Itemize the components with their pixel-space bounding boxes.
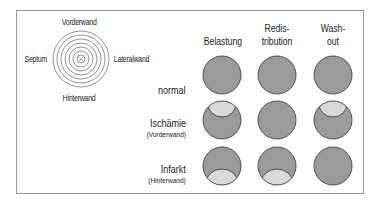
scan-infarkt-washout <box>314 147 352 185</box>
scan-ischaemie-washout <box>314 91 352 139</box>
row-label-sub: (Hinterwand) <box>148 176 186 186</box>
scan-normal-belastung <box>203 56 241 94</box>
bullseye-rings-icon <box>53 31 109 87</box>
column-label: Belastung <box>204 35 242 47</box>
column-header-washout: Wash- out <box>313 22 354 48</box>
row-label-infarkt: Infarkt (Hinterwand) <box>148 163 186 186</box>
row-label-main: Ischämie <box>147 117 186 130</box>
row-label-main: normal <box>158 84 186 97</box>
column-label-line1: Redis- <box>257 22 298 35</box>
scan-normal-washout <box>314 56 352 94</box>
scan-normal-redistribution <box>258 56 296 94</box>
bullseye-label-left: Septum <box>24 54 47 64</box>
scan-ischaemie-belastung <box>203 91 241 139</box>
column-label-line2: tribution <box>257 35 298 48</box>
scan-infarkt-redistribution <box>258 147 296 197</box>
bullseye-label-bottom: Hinterwand <box>63 93 96 103</box>
column-header-redistribution: Redis- tribution <box>257 22 298 48</box>
scan-infarkt-belastung <box>203 147 241 197</box>
bullseye-label-top: Vorderwand <box>62 17 97 27</box>
row-label-main: Infarkt <box>148 163 186 176</box>
bullseye-label-right: Lateralwand <box>114 54 149 64</box>
column-label-line2: out <box>313 35 354 48</box>
scan-ischaemie-redistribution <box>258 101 296 139</box>
row-label-normal: normal <box>158 84 186 97</box>
column-label-line1: Wash- <box>313 22 354 35</box>
row-label-ischaemie: Ischämie (Vorderwand) <box>147 117 186 140</box>
column-header-belastung: Belastung <box>203 35 244 48</box>
row-label-sub: (Vorderwand) <box>147 130 186 140</box>
